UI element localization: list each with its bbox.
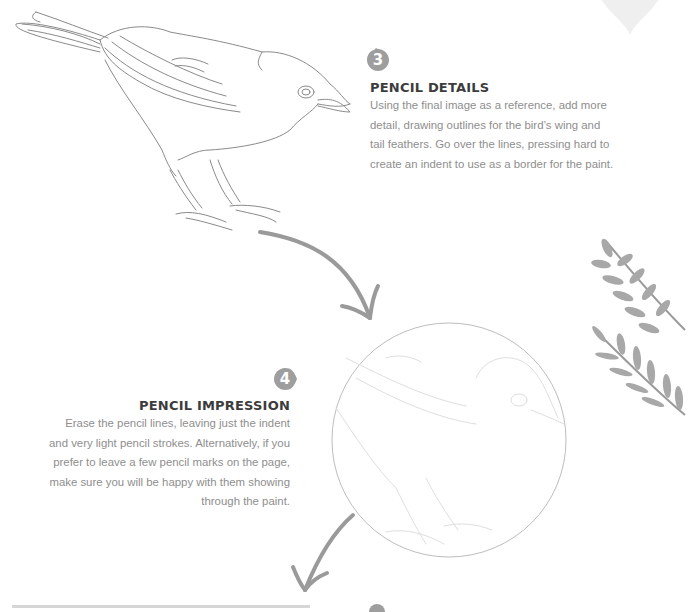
step-4-line: Erase the pencil lines, leaving just the… — [0, 414, 290, 434]
step-3-line: Using the final image as a reference, ad… — [370, 96, 690, 116]
step-4-line: through the paint. — [0, 492, 290, 512]
bird-pencil-sketch — [0, 0, 360, 240]
step-4-line: make sure you will be happy with them sh… — [0, 473, 290, 493]
heart-decoration-icon — [590, 0, 670, 40]
step-4-body: Erase the pencil lines, leaving just the… — [0, 414, 290, 512]
curved-arrow-icon — [240, 220, 400, 330]
step-3-body: Using the final image as a reference, ad… — [370, 96, 690, 174]
step-5-badge-partial — [369, 604, 385, 612]
next-image-top-edge — [12, 605, 310, 608]
step-4-line: prefer to leave a few pencil marks on th… — [0, 453, 290, 473]
curved-arrow-icon — [285, 505, 365, 605]
step-4-title: PENCIL IMPRESSION — [20, 398, 290, 413]
step-3-badge: 3 — [366, 48, 390, 72]
step-3-line: detail, drawing outlines for the bird’s … — [370, 116, 690, 136]
step-4-line: and very light pencil strokes. Alternati… — [0, 434, 290, 454]
step-4-number: 4 — [273, 367, 297, 391]
step-3-title: PENCIL DETAILS — [370, 80, 489, 95]
fern-leaves-decoration-icon — [585, 230, 685, 430]
step-4-badge: 4 — [273, 367, 297, 391]
step-3-number: 3 — [366, 48, 390, 72]
step-3-line: create an indent to use as a border for … — [370, 155, 690, 175]
step-3-line: tail feathers. Go over the lines, pressi… — [370, 135, 690, 155]
